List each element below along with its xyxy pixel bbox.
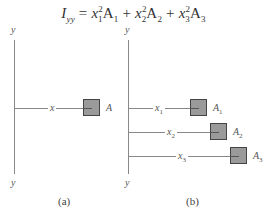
formula-term3-area: A: [190, 5, 201, 21]
panel-b-y-axis-top-label: y: [125, 24, 129, 35]
panel-b-distance-line-2-inner: [210, 132, 219, 133]
panel-a-distance-line-inner: [83, 108, 92, 109]
formula-term2-area-sub: 2: [157, 14, 162, 24]
panel-b-area-label-3: A3: [251, 151, 265, 165]
panel-a-caption: (a): [58, 195, 70, 207]
formula-term3-area-sub: 3: [201, 14, 206, 24]
panel-b-distance-label-1: x1: [153, 103, 165, 117]
panel-a-y-axis-top-label: y: [11, 24, 15, 35]
formula-lhs-sub: yy: [67, 14, 75, 24]
formula-term1-area: A: [103, 5, 114, 21]
panel-a-y-axis: [14, 40, 15, 174]
panel-b-distance-label-3: x3: [176, 151, 188, 165]
formula-plus: +: [166, 5, 175, 21]
formula-term1-area-sub: 1: [114, 14, 119, 24]
formula-equals: =: [79, 5, 88, 21]
panel-b-y-axis-bottom-label: y: [125, 177, 129, 188]
panel-b-caption: (b): [186, 195, 199, 207]
panel-b-y-axis: [128, 40, 129, 174]
panel-b-area-label-2: A2: [231, 127, 245, 141]
panel-b-distance-line-3-inner: [230, 156, 239, 157]
panel-a-area-label: A: [104, 103, 114, 113]
panel-a-y-axis-bottom-label: y: [11, 177, 15, 188]
formula-term2-area: A: [146, 5, 157, 21]
panel-a-distance-label: x: [48, 103, 56, 113]
panel-b-area-label-1: A1: [211, 103, 225, 117]
moment-of-inertia-formula: Iyy = x21A1 + x22A2 + x23A3: [0, 4, 267, 24]
panel-b-distance-label-2: x2: [165, 127, 177, 141]
formula-term2-var: x: [135, 5, 142, 21]
formula-plus: +: [122, 5, 131, 21]
panel-b-distance-line-1-inner: [190, 108, 199, 109]
